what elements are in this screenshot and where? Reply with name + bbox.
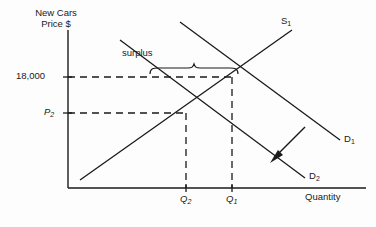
curve-label-d2: D2 (309, 171, 320, 182)
supply-demand-figure: New Cars Price $ Quantity 18,000 P2 Q2 Q… (0, 0, 376, 227)
quantity-label-q1: Q1 (226, 194, 237, 205)
surplus-label: surplus (122, 48, 153, 59)
curve-label-s1: S1 (281, 16, 291, 27)
price-label-p2: P2 (44, 107, 54, 118)
quantity-label-q2-subscript: 2 (187, 198, 191, 205)
x-axis-title: Quantity (305, 192, 340, 203)
curve-label-d2-text: D (309, 170, 316, 181)
price-label-18000-text: 18,000 (16, 70, 45, 81)
curve-label-d2-subscript: 2 (316, 175, 320, 182)
y-axis-title-line2: Price $ (18, 19, 94, 30)
curve-label-s1-subscript: 1 (287, 20, 291, 27)
curve-label-d1-subscript: 1 (351, 138, 355, 145)
quantity-label-q2: Q2 (180, 194, 191, 205)
quantity-label-q1-subscript: 1 (233, 198, 237, 205)
y-axis-title: New Cars Price $ (18, 8, 94, 30)
price-label-p2-subscript: 2 (50, 111, 54, 118)
demand-curve-d1 (180, 22, 340, 140)
demand-shift-arrow-head (270, 150, 283, 163)
price-label-18000: 18,000 (16, 71, 45, 82)
curve-label-d1: D1 (344, 134, 355, 145)
supply-curve-s1 (80, 30, 292, 180)
curve-label-d1-text: D (344, 133, 351, 144)
